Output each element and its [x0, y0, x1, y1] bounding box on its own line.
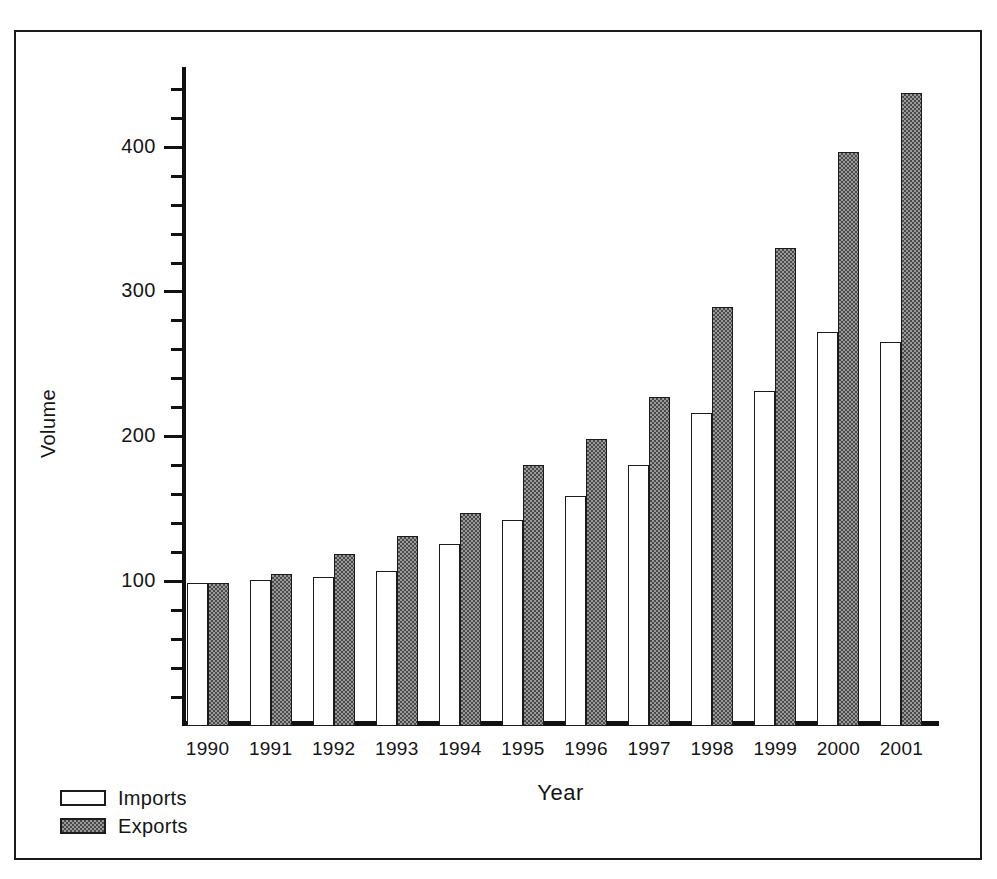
bar-imports-2000 [817, 332, 838, 726]
y-axis-tick-label: 300 [100, 280, 156, 300]
bar-exports-2001 [901, 93, 922, 726]
bar-group [754, 67, 796, 726]
bar-group [313, 67, 355, 726]
legend-item-exports: Exports [60, 813, 290, 839]
y-axis-major-tick [164, 435, 184, 438]
bar-exports-1997 [649, 397, 670, 726]
bar-group [628, 67, 670, 726]
bar-group [565, 67, 607, 726]
legend-item-imports: Imports [60, 785, 290, 811]
y-axis-tick-labels: 100200300400 [94, 32, 156, 732]
y-axis-major-tick [164, 580, 184, 583]
bar-group [187, 67, 229, 726]
bar-group [376, 67, 418, 726]
bar-imports-1999 [754, 391, 775, 726]
bar-imports-1991 [250, 580, 271, 726]
x-axis-title: Year [182, 780, 939, 806]
bar-exports-1996 [586, 439, 607, 726]
bar-exports-1991 [271, 574, 292, 726]
x-axis-tick-label: 2001 [856, 738, 946, 760]
legend-swatch-imports [60, 790, 106, 806]
y-axis-major-tick [164, 146, 184, 149]
bar-group [439, 67, 481, 726]
bar-exports-1994 [460, 513, 481, 726]
bar-imports-1998 [691, 413, 712, 726]
legend-label: Imports [118, 787, 187, 810]
bar-group [817, 67, 859, 726]
bar-group [691, 67, 733, 726]
bar-imports-1990 [187, 583, 208, 726]
plot-area: 100200300400 Volume 19901991199219931994… [16, 32, 984, 862]
bar-exports-1990 [208, 583, 229, 726]
y-axis-major-tick [164, 290, 184, 293]
chart-legend: ImportsExports [60, 785, 290, 841]
bars-layer [182, 67, 939, 726]
bar-exports-1993 [397, 536, 418, 726]
bar-group [880, 67, 922, 726]
y-axis-tick-label: 200 [100, 425, 156, 445]
bar-exports-1999 [775, 248, 796, 726]
y-axis-tick-label: 400 [100, 136, 156, 156]
y-axis-title: Volume [37, 364, 60, 484]
y-axis-tick-label: 100 [100, 570, 156, 590]
bar-imports-1993 [376, 571, 397, 726]
bar-group [250, 67, 292, 726]
bar-group [502, 67, 544, 726]
bar-exports-1992 [334, 554, 355, 726]
bar-exports-1998 [712, 307, 733, 726]
bar-imports-1996 [565, 496, 586, 726]
bar-exports-1995 [523, 465, 544, 726]
bar-imports-1994 [439, 544, 460, 726]
bar-exports-2000 [838, 152, 859, 726]
bar-imports-2001 [880, 342, 901, 726]
legend-label: Exports [118, 815, 188, 838]
figure-frame: 100200300400 Volume 19901991199219931994… [14, 30, 982, 860]
legend-swatch-exports [60, 818, 106, 834]
bar-imports-1992 [313, 577, 334, 726]
bar-imports-1997 [628, 465, 649, 726]
bar-imports-1995 [502, 520, 523, 726]
